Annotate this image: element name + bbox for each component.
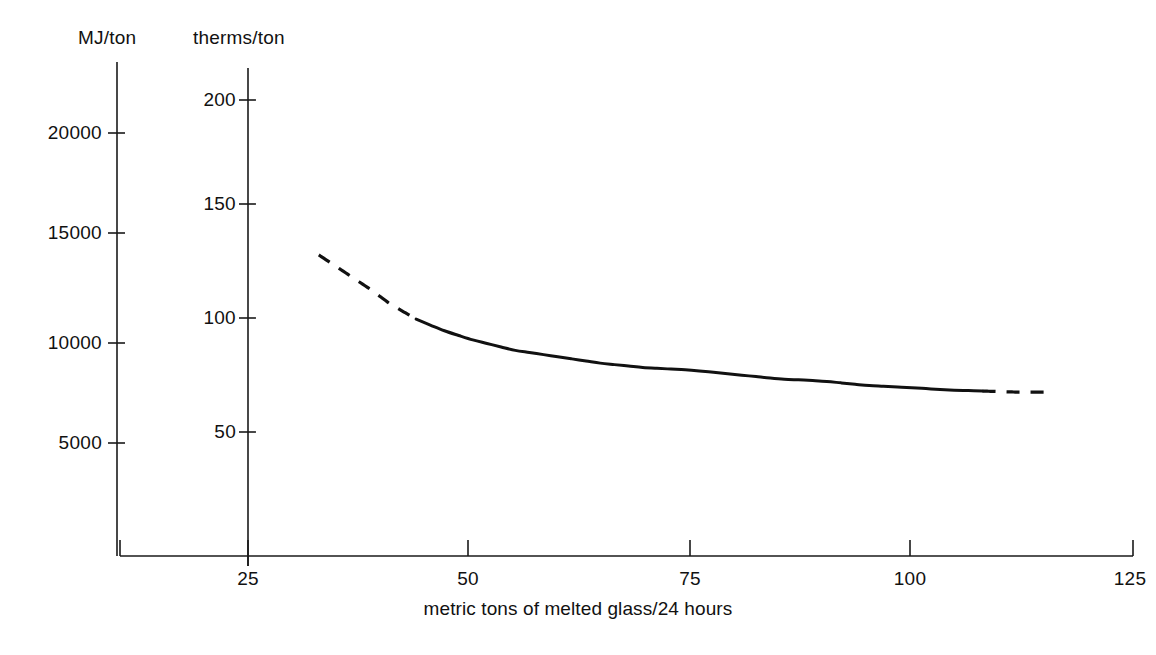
curve-segment-dashed-right xyxy=(983,391,1045,392)
curve-segment-dashed-left xyxy=(319,255,416,319)
curve-segment-solid xyxy=(416,319,982,391)
plot-area xyxy=(0,0,1156,655)
chart-figure: MJ/ton therms/ton 20000 15000 10000 5000… xyxy=(0,0,1156,655)
